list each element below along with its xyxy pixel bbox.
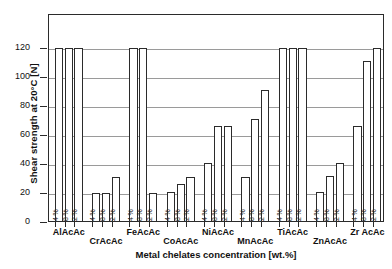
y-tick-mark [40,222,47,223]
bar-FeAcAc-12: 1.2 % [149,193,157,222]
bar-FeAcAc-04: 0.4 % [129,48,137,222]
x-group-label-ZrAcAc: Zr AcAc [350,227,384,237]
x-tick [316,222,317,227]
bar-CrAcAc-08: 0.8 % [102,193,110,222]
y-tick-mark [40,106,47,107]
y-tick-mark [40,193,47,194]
bar-CoAcAc-08: 0.8 % [177,184,185,222]
bar-ZnAcAc-08: 0.8 % [326,176,334,222]
bar-NiAcAc-12: 1.2 % [224,126,232,222]
y-tick-label: 20 [0,187,30,197]
x-group-label-FeAcAc: FeAcAc [127,227,161,237]
bar-MnAcAc-04: 0.4 % [241,177,249,222]
x-tick [92,222,93,227]
y-tick-label: 40 [0,158,30,168]
y-tick-label: 120 [0,42,30,52]
bar-TiAcAc-12: 1.2 % [298,48,306,222]
x-tick [177,222,178,227]
bar-TiAcAc-08: 0.8 % [289,48,297,222]
x-tick [251,222,252,227]
x-tick [167,222,168,227]
x-axis-title: Metal chelates concentration [wt.%] [48,249,384,260]
bars-layer: 0.4 %0.8 %1.2 %0.4 %0.8 %1.2 %0.4 %0.8 %… [48,14,384,222]
bar-ZrAcAc-04: 0.4 % [353,126,361,222]
x-tick [112,222,113,227]
chart-root: Shear strength at 20°C [N] 0204060801001… [0,0,392,269]
bar-value-label: 0.4 % [164,210,171,222]
y-tick-mark [40,135,47,136]
y-tick-label: 100 [0,71,30,81]
bar-AlAcAc-12: 1.2 % [74,48,82,222]
x-group-label-CoAcAc: CoAcAc [163,236,198,246]
y-tick-mark [40,164,47,165]
bar-CoAcAc-04: 0.4 % [167,192,175,222]
bar-ZnAcAc-04: 0.4 % [316,192,324,222]
y-tick-label: 0 [0,216,30,226]
y-tick-label: 80 [0,100,30,110]
bar-value-label: 0.4 % [89,210,96,222]
bar-value-label: 0.4 % [201,210,208,222]
bar-NiAcAc-04: 0.4 % [204,163,212,222]
bar-value-label: 0.4 % [52,210,59,222]
bar-AlAcAc-08: 0.8 % [65,48,73,222]
bar-ZrAcAc-12: 1.2 % [373,48,381,222]
bar-value-label: 0.4 % [127,210,134,222]
x-group-label-MnAcAc: MnAcAc [237,236,273,246]
x-group-label-CrAcAc: CrAcAc [89,236,122,246]
bar-CrAcAc-12: 1.2 % [112,177,120,222]
x-tick [186,222,187,227]
bar-value-label: 0.4 % [276,210,283,222]
bar-value-label: 0.4 % [351,210,358,222]
bar-ZnAcAc-12: 1.2 % [336,163,344,222]
bar-value-label: 0.4 % [313,210,320,222]
x-tick [326,222,327,227]
y-tick-label: 60 [0,129,30,139]
x-group-label-ZnAcAc: ZnAcAc [313,236,347,246]
x-tick [102,222,103,227]
x-tick [336,222,337,227]
bar-MnAcAc-08: 0.8 % [251,119,259,222]
bar-MnAcAc-12: 1.2 % [261,90,269,222]
x-group-label-NiAcAc: NiAcAc [202,227,234,237]
bar-CoAcAc-12: 1.2 % [186,177,194,222]
x-tick [241,222,242,227]
bar-AlAcAc-04: 0.4 % [55,48,63,222]
y-tick-mark [40,77,47,78]
bar-CrAcAc-04: 0.4 % [92,193,100,222]
x-group-label-AlAcAc: AlAcAc [53,227,85,237]
bar-FeAcAc-08: 0.8 % [139,48,147,222]
bar-value-label: 0.4 % [239,210,246,222]
bar-ZrAcAc-08: 0.8 % [363,61,371,222]
x-tick [261,222,262,227]
bar-TiAcAc-04: 0.4 % [279,48,287,222]
x-group-label-TiAcAc: TiAcAc [277,227,308,237]
bar-NiAcAc-08: 0.8 % [214,126,222,222]
y-tick-mark [40,48,47,49]
